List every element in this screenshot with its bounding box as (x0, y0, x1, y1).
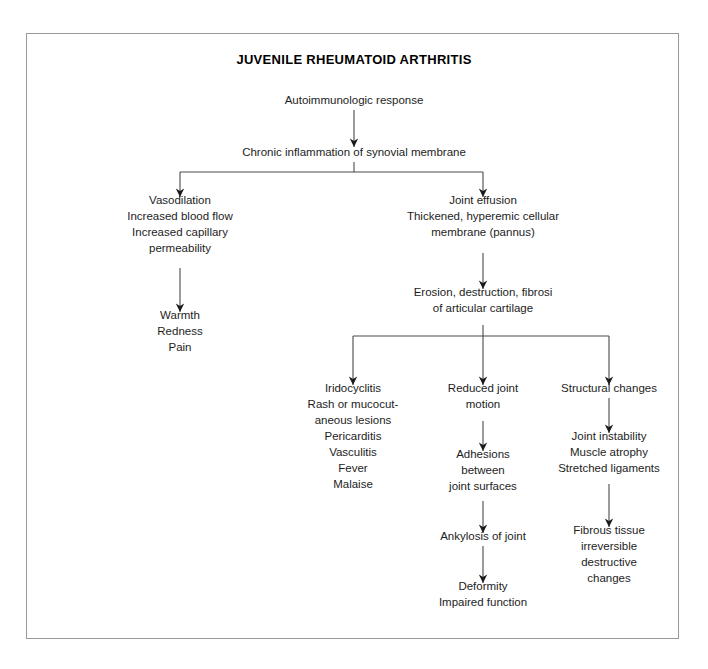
node-chronic: Chronic inflammation of synovial membran… (242, 146, 466, 158)
node-iridocyclitis-line-0: Iridocyclitis (325, 382, 381, 394)
node-structural-line-0: Structural changes (561, 382, 657, 394)
node-effusion-line-2: membrane (pannus) (431, 226, 535, 238)
node-warmth: WarmthRednessPain (157, 309, 203, 353)
node-adhesions: Adhesionsbetweenjoint surfaces (448, 448, 517, 492)
node-ankylosis: Ankylosis of joint (440, 530, 526, 542)
node-iridocyclitis-line-6: Malaise (333, 478, 373, 490)
node-ankylosis-line-0: Ankylosis of joint (440, 530, 526, 542)
node-vasodilation-line-0: Vasodilation (149, 194, 211, 206)
node-structural: Structural changes (561, 382, 657, 394)
node-reduced-motion: Reduced jointmotion (448, 382, 519, 410)
node-reduced-motion-line-0: Reduced joint (448, 382, 519, 394)
node-iridocyclitis-line-1: Rash or mucocut- (308, 398, 399, 410)
page-title: JUVENILE RHEUMATOID ARTHRITIS (236, 52, 471, 67)
node-autoimmune: Autoimmunologic response (285, 94, 424, 106)
node-erosion: Erosion, destruction, fibrosiof articula… (414, 286, 553, 314)
node-effusion-line-0: Joint effusion (449, 194, 517, 206)
node-instability: Joint instabilityMuscle atrophyStretched… (558, 430, 660, 474)
node-effusion-line-1: Thickened, hyperemic cellular (407, 210, 559, 222)
node-vasodilation: VasodilationIncreased blood flowIncrease… (127, 194, 233, 254)
node-adhesions-line-2: joint surfaces (448, 480, 517, 492)
node-instability-line-2: Stretched ligaments (558, 462, 660, 474)
node-iridocyclitis-line-5: Fever (338, 462, 368, 474)
node-fibrous: Fibrous tissueirreversibledestructivecha… (573, 524, 645, 584)
node-vasodilation-line-2: Increased capillary (132, 226, 228, 238)
node-erosion-line-1: of articular cartilage (433, 302, 533, 314)
node-fibrous-line-2: destructive (581, 556, 637, 568)
node-vasodilation-line-1: Increased blood flow (127, 210, 233, 222)
node-iridocyclitis-line-3: Pericarditis (325, 430, 382, 442)
node-fibrous-line-3: changes (587, 572, 631, 584)
node-iridocyclitis: IridocyclitisRash or mucocut-aneous lesi… (308, 382, 399, 490)
node-vasodilation-line-3: permeability (149, 242, 211, 254)
node-iridocyclitis-line-2: aneous lesions (315, 414, 392, 426)
node-warmth-line-1: Redness (157, 325, 203, 337)
node-instability-line-1: Muscle atrophy (570, 446, 648, 458)
node-effusion: Joint effusionThickened, hyperemic cellu… (407, 194, 559, 238)
node-adhesions-line-1: between (461, 464, 504, 476)
node-chronic-line-0: Chronic inflammation of synovial membran… (242, 146, 466, 158)
node-warmth-line-0: Warmth (160, 309, 200, 321)
node-instability-line-0: Joint instability (572, 430, 647, 442)
node-adhesions-line-0: Adhesions (456, 448, 510, 460)
node-deformity-line-1: Impaired function (439, 596, 527, 608)
flowchart-canvas: JUVENILE RHEUMATOID ARTHRITIS Autoimmuno… (0, 0, 708, 669)
label-layer: JUVENILE RHEUMATOID ARTHRITIS Autoimmuno… (127, 52, 660, 608)
node-erosion-line-0: Erosion, destruction, fibrosi (414, 286, 553, 298)
diagram-root: JUVENILE RHEUMATOID ARTHRITIS Autoimmuno… (0, 0, 708, 669)
node-autoimmune-line-0: Autoimmunologic response (285, 94, 424, 106)
node-deformity: DeformityImpaired function (439, 580, 527, 608)
node-fibrous-line-1: irreversible (581, 540, 637, 552)
node-reduced-motion-line-1: motion (466, 398, 501, 410)
connector-layer (176, 110, 613, 583)
node-warmth-line-2: Pain (168, 341, 191, 353)
node-deformity-line-0: Deformity (458, 580, 507, 592)
node-iridocyclitis-line-4: Vasculitis (329, 446, 377, 458)
node-fibrous-line-0: Fibrous tissue (573, 524, 645, 536)
